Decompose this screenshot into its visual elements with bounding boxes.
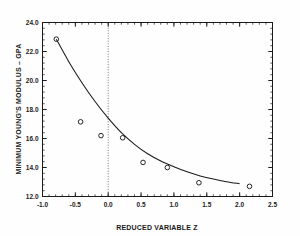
y-tick-label: 24.0 [26, 19, 39, 26]
y-tick-label: 16.0 [26, 135, 39, 142]
y-tick-label: 14.0 [26, 164, 39, 171]
scatter-plot: -1.0-0.50.00.51.01.52.02.5 12.014.016.01… [0, 0, 300, 236]
x-tick-label: 0.5 [137, 201, 146, 208]
x-tick-label: -1.0 [37, 201, 49, 208]
x-tick-label: 1.0 [169, 201, 178, 208]
x-tick-label: 1.5 [202, 201, 211, 208]
y-tick-label: 20.0 [26, 77, 39, 84]
y-axis-title: MINIMUM YOUNG'S MODULUS – GPA [15, 44, 22, 175]
x-tick-label: 2.0 [235, 201, 244, 208]
x-tick-label: 2.5 [268, 201, 277, 208]
y-tick-label: 18.0 [26, 106, 39, 113]
y-tick-label: 22.0 [26, 48, 39, 55]
x-tick-label: -0.5 [70, 201, 82, 208]
x-axis-title: REDUCED VARIABLE Z [116, 224, 198, 231]
x-tick-label: 0.0 [104, 201, 113, 208]
y-tick-label: 12.0 [26, 193, 39, 200]
chart-figure: -1.0-0.50.00.51.01.52.02.5 12.014.016.01… [0, 0, 300, 236]
